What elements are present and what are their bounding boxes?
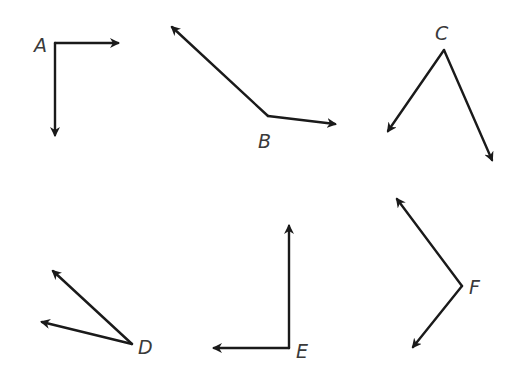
angles-diagram: ABCDEF xyxy=(0,0,516,379)
ray-arrow-icon xyxy=(172,27,268,116)
ray-arrow-icon xyxy=(413,286,462,347)
angle-e: E xyxy=(214,226,308,362)
angle-label: B xyxy=(258,130,271,152)
angle-d: D xyxy=(42,271,153,358)
angle-label: D xyxy=(138,336,153,358)
angle-a: A xyxy=(32,34,118,135)
angle-label: F xyxy=(469,276,481,298)
angle-label: A xyxy=(32,34,47,56)
ray-arrow-icon xyxy=(444,50,492,160)
angle-label: E xyxy=(296,340,308,362)
ray-arrow-icon xyxy=(397,199,462,286)
ray-arrow-icon xyxy=(53,271,132,344)
angle-b: B xyxy=(172,27,335,152)
ray-arrow-icon xyxy=(268,116,335,124)
angle-f: F xyxy=(397,199,481,347)
angle-c: C xyxy=(388,22,492,160)
angle-label: C xyxy=(435,22,449,44)
ray-arrow-icon xyxy=(388,50,444,131)
